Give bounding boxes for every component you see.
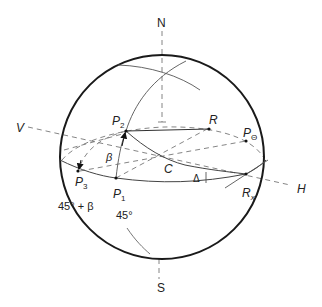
label-45-plus-beta: 45° + β	[58, 200, 94, 212]
label-r: R	[209, 113, 218, 127]
points	[76, 127, 247, 179]
label-p2: P2	[112, 114, 125, 130]
label-45: 45°	[116, 209, 133, 221]
label-beta: β	[105, 151, 113, 163]
label-p1-main: P	[113, 187, 121, 201]
point-r	[207, 127, 210, 130]
label-p1: P1	[113, 187, 126, 203]
label-center: C	[164, 162, 173, 176]
label-p-theta-sub: Θ	[251, 133, 257, 142]
point-p3	[76, 169, 79, 172]
lower-arc-45	[127, 228, 150, 254]
beta-arrow	[122, 133, 125, 146]
meridian-arc-p1-p2	[116, 61, 186, 178]
label-p-theta-main: P	[243, 126, 251, 140]
label-p3: P3	[75, 175, 88, 191]
label-p2-main: P	[112, 114, 120, 128]
label-p-theta: PΘ	[243, 126, 257, 142]
label-rx-main: R	[242, 186, 251, 200]
upper-arc	[118, 65, 200, 90]
label-delta: Δ	[193, 173, 200, 184]
label-north: N	[157, 16, 166, 30]
point-p1	[114, 176, 117, 179]
poincare-sphere-diagram: N S V H P2 R PΘ P3 P1 Rx C β Δ 45° + β 4…	[0, 0, 322, 307]
label-rx: Rx	[242, 186, 256, 202]
label-horizontal: H	[297, 182, 306, 196]
label-vertical: V	[16, 121, 25, 135]
label-p3-main: P	[75, 175, 83, 189]
point-p2	[124, 129, 127, 132]
label-p2-sub: 2	[120, 121, 125, 130]
label-p3-sub: 3	[83, 182, 88, 191]
label-south: S	[157, 281, 165, 295]
equator-front	[60, 160, 266, 182]
label-p1-sub: 1	[121, 194, 126, 203]
point-rx	[244, 172, 247, 175]
